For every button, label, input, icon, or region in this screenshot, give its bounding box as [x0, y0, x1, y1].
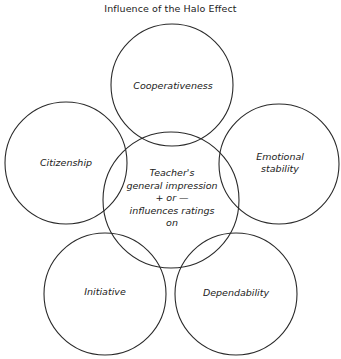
label-cooperativeness: Cooperativeness: [133, 80, 212, 92]
center-line-4: influences ratings: [126, 204, 217, 217]
label-initiative: Initiative: [84, 286, 125, 298]
center-line-2: general impression: [126, 179, 217, 192]
center-line-3: + or —: [126, 192, 217, 205]
label-dependability: Dependability: [203, 287, 269, 299]
label-citizenship: Citizenship: [40, 157, 92, 169]
center-line-5: on: [126, 217, 217, 230]
center-line-1: Teacher's: [126, 167, 217, 180]
label-emotional-stability: Emotional stability: [256, 151, 304, 175]
label-emotional: Emotional: [256, 151, 304, 163]
label-general-impression: Teacher's general impression + or — infl…: [126, 167, 217, 230]
label-stability: stability: [256, 163, 304, 175]
